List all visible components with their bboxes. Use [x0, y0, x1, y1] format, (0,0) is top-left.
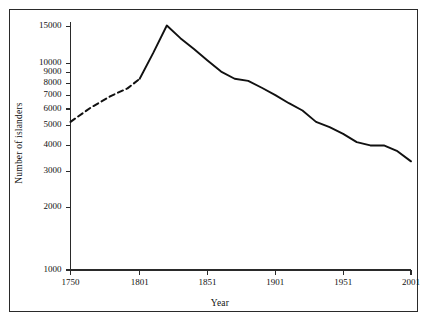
x-tick-label: 1750 [49, 277, 93, 287]
chart-figure: Number of islanders Year 150001000090008… [0, 0, 427, 321]
y-tick-label: 15000 [16, 20, 62, 30]
x-axis [71, 270, 412, 275]
x-tick-label: 2001 [389, 277, 427, 287]
series-line-solid [140, 25, 411, 161]
y-tick-label: 2000 [16, 201, 62, 211]
y-tick-label: 6000 [16, 103, 62, 113]
y-tick-label: 1000 [16, 264, 62, 274]
y-tick-label: 9000 [16, 66, 62, 76]
x-axis-title: Year [170, 298, 270, 308]
x-tick-label: 1901 [253, 277, 297, 287]
y-tick-label: 8000 [16, 77, 62, 87]
y-tick-label: 5000 [16, 119, 62, 129]
x-tick-label: 1951 [321, 277, 365, 287]
y-tick-label: 7000 [16, 89, 62, 99]
y-axis [66, 22, 71, 270]
x-tick-label: 1851 [186, 277, 230, 287]
line-chart-plot [0, 0, 427, 321]
y-tick-label: 4000 [16, 139, 62, 149]
y-tick-label: 3000 [16, 165, 62, 175]
series-line-dashed [71, 79, 140, 122]
data-series [71, 25, 412, 161]
x-tick-label: 1801 [118, 277, 162, 287]
